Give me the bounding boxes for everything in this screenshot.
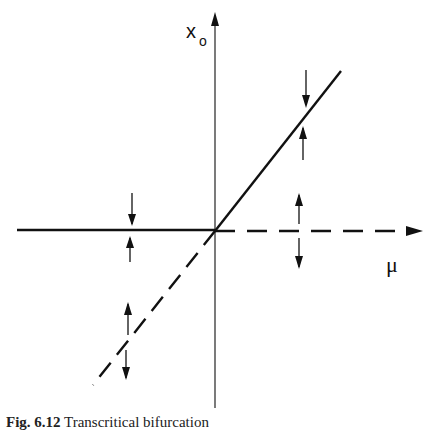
- figure-caption-label: Fig. 6.12: [6, 414, 61, 430]
- flow-arrows-left: [126, 193, 136, 262]
- unstable-branch-diagonal-left: [93, 231, 215, 385]
- x-axis-label: μ: [386, 252, 398, 277]
- y-axis-arrow-icon: [211, 12, 219, 26]
- figure-caption: Fig. 6.12 Transcritical bifurcation: [6, 414, 209, 431]
- y-axis: [211, 12, 219, 408]
- y-axis-label-subscript: o: [199, 33, 207, 49]
- stable-branch-diagonal-right: [215, 71, 341, 231]
- flow-arrows-diagonal-right: [299, 70, 310, 160]
- y-axis-label: x: [186, 20, 196, 42]
- x-axis-arrow-icon: [406, 226, 423, 236]
- figure-caption-text: Transcritical bifurcation: [64, 414, 209, 430]
